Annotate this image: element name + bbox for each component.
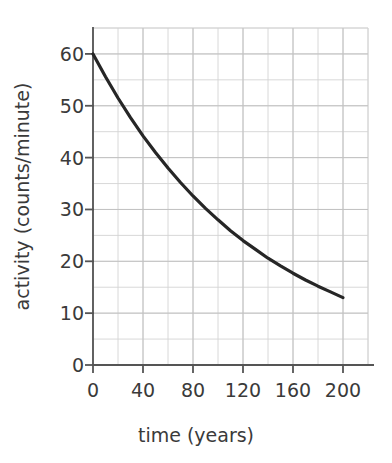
x-axis-title: time (years) xyxy=(0,424,392,446)
y-tick-label-0: 0 xyxy=(40,354,84,376)
y-tick-label-30: 30 xyxy=(40,198,84,220)
y-tick-label-40: 40 xyxy=(40,147,84,169)
x-tick-label-80: 80 xyxy=(181,379,205,401)
x-tick-label-120: 120 xyxy=(225,379,261,401)
x-tick-label-160: 160 xyxy=(275,379,311,401)
x-tick-label-0: 0 xyxy=(87,379,99,401)
radioactive-decay-chart: 0102030405060 04080120160200 time (years… xyxy=(0,0,392,463)
y-tick-label-20: 20 xyxy=(40,250,84,272)
axis-lines xyxy=(93,27,374,365)
y-tick-label-60: 60 xyxy=(40,43,84,65)
x-tick-label-40: 40 xyxy=(131,379,155,401)
y-tick-label-50: 50 xyxy=(40,95,84,117)
y-axis-title: activity (counts/minute) xyxy=(8,28,36,365)
x-tick-label-200: 200 xyxy=(325,379,361,401)
major-gridlines xyxy=(93,28,368,365)
tick-marks xyxy=(85,54,343,373)
y-tick-label-10: 10 xyxy=(40,302,84,324)
minor-gridlines xyxy=(93,28,368,365)
